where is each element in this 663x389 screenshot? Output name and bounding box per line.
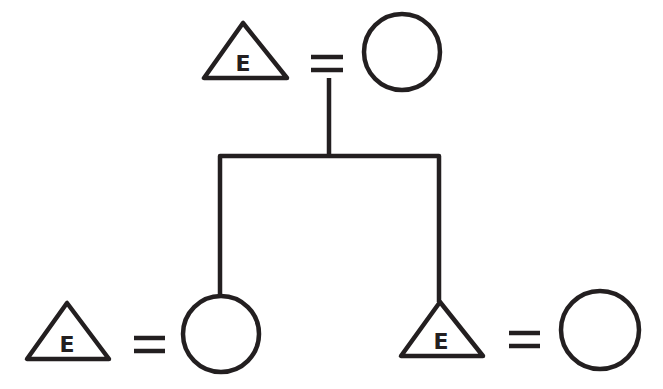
male-label: E bbox=[235, 51, 250, 76]
male-label: E bbox=[59, 332, 74, 357]
gen2-right-female-circle-icon bbox=[561, 291, 639, 369]
gen2-right-marriage-symbol bbox=[509, 333, 540, 346]
descent-lines bbox=[220, 78, 439, 302]
kinship-diagram: E E E bbox=[0, 0, 663, 389]
gen1-male: E bbox=[204, 23, 287, 78]
gen2-left-male: E bbox=[27, 303, 109, 359]
male-label: E bbox=[433, 329, 448, 354]
gen2-right-male: E bbox=[401, 302, 483, 356]
gen2-left-female-circle-icon bbox=[183, 296, 259, 372]
gen1-female-circle-icon bbox=[364, 14, 440, 90]
gen2-left-marriage-symbol bbox=[134, 338, 165, 351]
gen1-marriage-symbol bbox=[311, 57, 343, 70]
